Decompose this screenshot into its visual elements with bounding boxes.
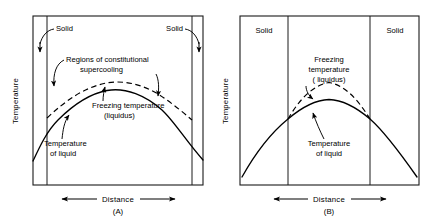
- panel-b-liquidus-leader: [306, 86, 313, 99]
- panel-b-solid-right-label: Solid: [387, 26, 404, 35]
- panel-b-liquidus-label-line1: Freezing: [314, 55, 344, 64]
- panel-b-liquid-label-line1: Temperature: [308, 139, 351, 148]
- panel-a-liquidus-label-line2: (liquidus): [104, 111, 135, 120]
- panel-a-supercooling-label-line1: Regions of constitutional: [66, 55, 149, 64]
- panel-b-liquidus-curve: [288, 83, 370, 120]
- constitutional-supercooling-figure: Solid Solid Regions of constitutional su…: [0, 0, 432, 221]
- figure-root: Solid Solid Regions of constitutional su…: [0, 0, 432, 221]
- panel-b-liquid-leader: [313, 113, 324, 139]
- panel-b-liquidus-label-line2: temperature: [309, 65, 350, 74]
- panel-a-supercooling-leader-left: [54, 60, 64, 86]
- panel-a-solid-right-label: Solid: [166, 24, 183, 33]
- panel-b-y-axis-title: Temperature: [221, 78, 230, 124]
- panel-a-liquidus-leader: [103, 87, 105, 101]
- panel-b-solid-left-label: Solid: [256, 26, 273, 35]
- panel-b-frame: [240, 16, 419, 185]
- panel-a-liquidus-label-line1: Freezing temperature: [92, 101, 165, 110]
- panel-a-supercooling-label-line2: supercooling: [80, 65, 123, 74]
- panel-a: Solid Solid Regions of constitutional su…: [11, 16, 203, 216]
- panel-a-liquid-label-line1: Temperature: [44, 139, 87, 148]
- panel-a-liquid-label-line2: of liquid: [50, 149, 76, 158]
- panel-a-liquid-leader: [62, 115, 69, 139]
- panel-b-tag: (B): [324, 207, 335, 216]
- panel-b-liquid-label-line2: of liquid: [316, 149, 342, 158]
- panel-b-x-axis-title: Distance: [313, 195, 345, 204]
- panel-b: Solid Solid Freezing temperature ( liqui…: [221, 16, 419, 216]
- panel-b-liquidus-label-line3: ( liquidus): [313, 75, 346, 84]
- panel-a-y-axis-title: Temperature: [11, 78, 20, 124]
- panel-a-tag: (A): [113, 207, 124, 216]
- panel-a-x-axis-title: Distance: [102, 195, 134, 204]
- panel-a-solid-left-label: Solid: [56, 24, 73, 33]
